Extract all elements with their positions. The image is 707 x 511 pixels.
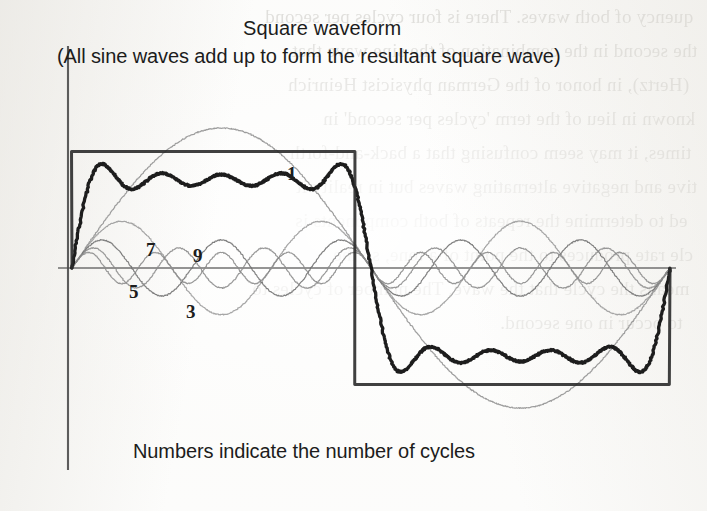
harmonic-number-label-1: 1	[287, 163, 297, 184]
harmonic-number-label-9: 9	[193, 245, 203, 266]
figure-page: quency of both waves. There is four cycl…	[0, 0, 707, 511]
figure-title: Square waveform	[243, 17, 401, 40]
harmonic-number-label-7: 7	[146, 239, 156, 260]
harmonic-number-label-5: 5	[129, 281, 139, 302]
figure-subtitle: (All sine waves add up to form the resul…	[57, 45, 560, 68]
harmonic-number-label-3: 3	[186, 301, 196, 322]
square-wave-fourier-plot: 13579	[0, 0, 707, 511]
figure-footer-note: Numbers indicate the number of cycles	[133, 440, 475, 463]
